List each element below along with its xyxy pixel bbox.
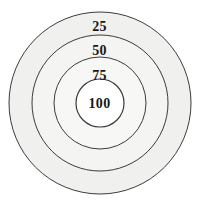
ring-label-second: 50 — [0, 44, 199, 58]
ring-label-bullseye: 100 — [0, 97, 199, 111]
target-diagram: 25 50 75 100 — [0, 0, 199, 205]
ring-label-outer: 25 — [0, 20, 199, 34]
ring-label-third: 75 — [0, 69, 199, 83]
